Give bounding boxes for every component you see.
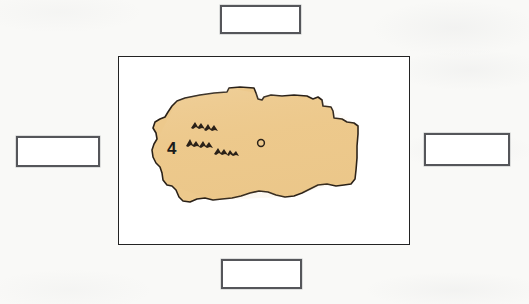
answer-box-bottom[interactable] [221,259,302,289]
answer-box-top-text [222,7,299,32]
answer-box-top[interactable] [220,5,301,34]
region-number-label: 4 [167,139,176,159]
answer-box-bottom-text [223,261,300,287]
answer-box-right[interactable] [424,133,510,166]
worksheet-page: 4 [0,0,529,304]
answer-box-left[interactable] [16,136,100,167]
answer-box-left-text [18,138,98,165]
answer-box-right-text [426,135,508,164]
map-frame [118,56,410,245]
